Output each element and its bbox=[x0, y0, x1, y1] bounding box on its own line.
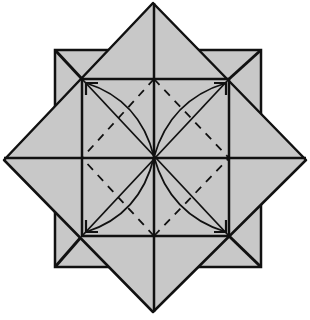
origami-diagram bbox=[0, 0, 310, 320]
